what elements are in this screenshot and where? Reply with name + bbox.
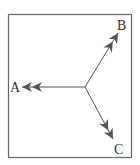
- vector-c: [85, 87, 117, 141]
- vector-b: [85, 30, 122, 87]
- label-c: C: [114, 142, 123, 157]
- arrowhead-icon: [103, 39, 117, 53]
- vector-a: [22, 82, 85, 92]
- arrowhead-icon: [99, 119, 113, 133]
- vector-diagram: A B C: [0, 0, 140, 165]
- label-a: A: [10, 80, 21, 95]
- arrowhead-icon: [104, 128, 118, 142]
- label-b: B: [117, 18, 126, 33]
